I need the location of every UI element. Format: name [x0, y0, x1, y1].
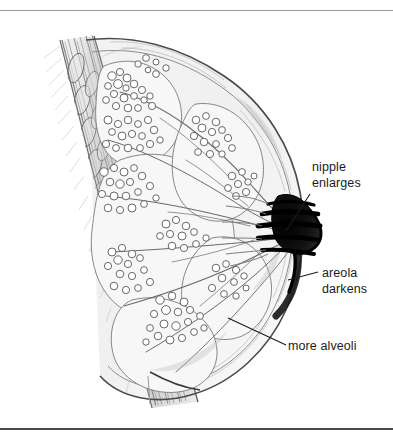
breast-body-group [86, 39, 321, 405]
label-nipple-line1: nipple [312, 159, 361, 175]
breast-anatomy-illustration [0, 0, 393, 440]
label-areola-darkens: areola darkens [322, 265, 367, 297]
label-more-alveoli: more alveoli [288, 338, 357, 354]
bottom-divider-rule [0, 428, 393, 430]
label-nipple-line2: enlarges [312, 175, 361, 191]
label-areola-line1: areola [322, 265, 367, 281]
label-nipple-enlarges: nipple enlarges [312, 159, 361, 191]
label-areola-line2: darkens [322, 281, 367, 297]
label-alveoli-line1: more alveoli [288, 338, 357, 354]
